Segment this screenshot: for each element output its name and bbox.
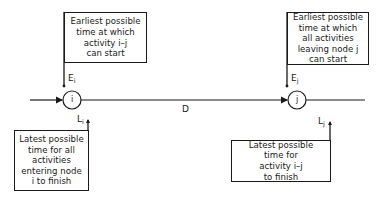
- earliest-time-i-label: Ei: [68, 73, 76, 86]
- latest-finish-node-i-box: Latest possible time for all activities …: [14, 130, 89, 191]
- latest-time-j-label: Lj: [318, 116, 325, 129]
- earliest-start-activity-box: Earliest possible time at which activity…: [64, 12, 147, 63]
- latest-finish-activity-box: Latest possible time for activity i–j to…: [231, 140, 331, 182]
- node-i-label: i: [63, 91, 81, 109]
- earliest-start-node-j-box: Earliest possible time at which all acti…: [287, 12, 369, 65]
- node-j-label: j: [288, 91, 306, 109]
- earliest-time-j-label: Ej: [291, 73, 299, 86]
- latest-time-i-label: Li: [77, 114, 84, 127]
- duration-label: D: [182, 104, 189, 114]
